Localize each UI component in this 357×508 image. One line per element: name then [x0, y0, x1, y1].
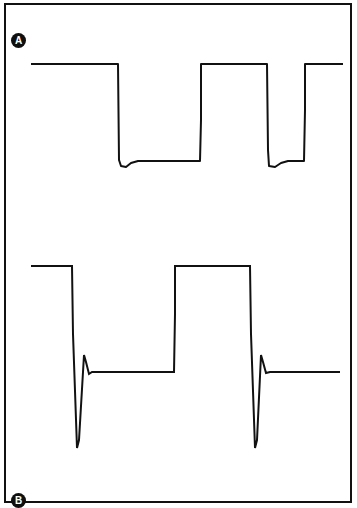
waveform-trace-b [0, 254, 357, 508]
panel-b: B [0, 254, 357, 508]
waveform-figure: A B [0, 0, 357, 508]
trace-b-polyline [31, 266, 340, 448]
panel-a: A [0, 0, 357, 254]
panel-label-a: A [11, 33, 26, 48]
waveform-trace-a [0, 0, 357, 254]
panel-label-b: B [11, 493, 26, 508]
trace-a-polyline [31, 64, 343, 167]
